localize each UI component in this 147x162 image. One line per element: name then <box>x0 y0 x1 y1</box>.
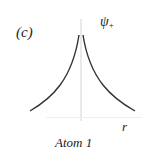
wavefunction-label: ψ+ <box>100 14 114 30</box>
psi-symbol: ψ <box>100 14 109 29</box>
panel-label: (c) <box>16 24 33 41</box>
psi-subscript: + <box>109 20 114 30</box>
x-axis-label: r <box>122 119 127 135</box>
atom-caption: Atom 1 <box>55 135 92 151</box>
right-curve <box>83 35 135 111</box>
left-curve <box>30 35 79 111</box>
wavefunction-diagram: (c) ψ+ r Atom 1 <box>0 0 147 162</box>
